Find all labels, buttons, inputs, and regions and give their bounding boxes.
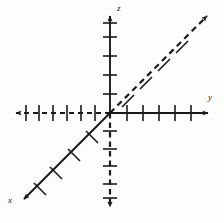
x-axis-label: x: [8, 196, 12, 205]
x-axis-negative-ticks: [122, 41, 188, 107]
coordinate-axes-figure: z y x: [0, 0, 224, 223]
x-axis: [24, 16, 207, 199]
x-axis-negative-line: [110, 16, 207, 113]
y-axis-label: y: [208, 93, 212, 102]
z-axis-label: z: [117, 4, 121, 13]
axes-drawing: [0, 0, 224, 223]
y-axis: [16, 105, 208, 121]
x-axis-positive-ticks: [34, 131, 98, 195]
